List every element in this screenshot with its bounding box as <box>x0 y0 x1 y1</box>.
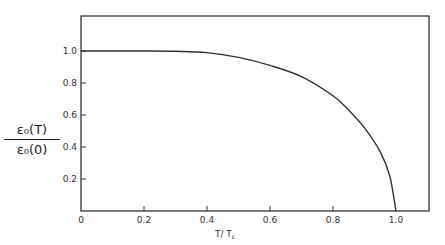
gap-curve <box>81 51 396 211</box>
x-tick-label: 0.4 <box>200 215 215 225</box>
y-tick-label: 0.6 <box>63 110 78 120</box>
x-tick-label: 0.2 <box>137 215 151 225</box>
data-curve <box>81 51 396 211</box>
y-tick-label: 1.0 <box>63 46 78 56</box>
y-axis-label-numerator: ε₀(T) <box>4 122 60 140</box>
y-tick-label: 0.2 <box>63 174 77 184</box>
x-tick-label: 1.0 <box>389 215 404 225</box>
axis-ticks: 00.20.40.60.81.00.20.40.60.81.0 <box>63 46 404 225</box>
x-axis-label: T/ Tc <box>214 229 235 240</box>
x-tick-label: 0.6 <box>263 215 278 225</box>
y-axis-label: ε₀(T) ε₀(0) <box>4 122 60 157</box>
x-tick-label: 0.8 <box>326 215 341 225</box>
y-axis-label-denominator: ε₀(0) <box>4 140 60 157</box>
y-tick-label: 0.8 <box>63 78 78 88</box>
plot-frame <box>81 16 429 211</box>
chart: 00.20.40.60.81.00.20.40.60.81.0 T/ Tc <box>0 0 445 245</box>
x-tick-label: 0 <box>78 215 84 225</box>
y-tick-label: 0.4 <box>63 142 78 152</box>
